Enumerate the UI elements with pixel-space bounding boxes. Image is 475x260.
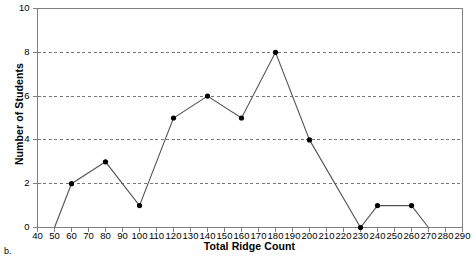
y-tick-label: 10 [4,3,30,13]
panel-letter: b. [4,246,12,256]
y-tick-label: 4 [4,134,30,144]
data-point-marker [69,181,74,186]
y-tick-label: 8 [4,47,30,57]
y-tick-label: 6 [4,91,30,101]
data-point-marker [205,94,210,99]
data-point-marker [137,203,142,208]
data-point-marker [409,203,414,208]
data-point-marker [273,50,278,55]
data-point-marker [307,137,312,142]
data-point-marker [171,115,176,120]
data-point-marker [375,203,380,208]
x-tick-label: 290 [451,231,475,241]
data-point-marker [103,159,108,164]
data-point-marker [239,115,244,120]
y-tick-label: 2 [4,178,30,188]
x-axis-title: Total Ridge Count [37,240,462,252]
y-axis-title: Number of Students [13,39,25,189]
